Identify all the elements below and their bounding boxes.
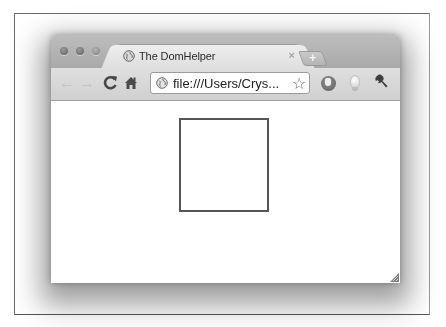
wrench-menu-button[interactable] <box>373 74 389 94</box>
bookmark-star-icon[interactable]: ☆ <box>292 74 306 93</box>
page-content <box>51 101 400 283</box>
reload-button[interactable] <box>103 75 118 93</box>
address-bar[interactable]: file:///Users/Crys... ☆ <box>150 72 310 94</box>
hand-extension-icon[interactable] <box>321 76 336 91</box>
plus-icon: + <box>302 52 324 64</box>
reload-icon <box>103 75 118 90</box>
browser-toolbar: ← → file:///Users/Crys... ☆ <box>51 68 400 101</box>
lightbulb-extension-icon[interactable] <box>350 75 360 88</box>
tab-the-domhelper[interactable]: The DomHelper × <box>115 45 301 69</box>
tab-title: The DomHelper <box>139 50 215 62</box>
home-button[interactable] <box>124 76 138 93</box>
tab-close-button[interactable]: × <box>289 49 295 61</box>
zoom-window-button[interactable] <box>92 47 100 55</box>
close-window-button[interactable] <box>60 47 68 55</box>
forward-button[interactable]: → <box>79 75 95 91</box>
home-icon <box>124 76 138 90</box>
title-bar: The DomHelper × + <box>51 35 400 68</box>
new-tab-button[interactable]: + <box>298 51 327 66</box>
wrench-icon <box>373 74 389 90</box>
url-text: file:///Users/Crys... <box>173 76 279 91</box>
globe-icon <box>156 77 168 89</box>
browser-window: The DomHelper × + ← → file:// <box>51 35 400 283</box>
minimize-window-button[interactable] <box>76 47 84 55</box>
back-button[interactable]: ← <box>59 75 75 91</box>
square-box <box>179 118 269 212</box>
globe-icon <box>123 50 135 62</box>
resize-grip-icon[interactable] <box>390 273 399 282</box>
